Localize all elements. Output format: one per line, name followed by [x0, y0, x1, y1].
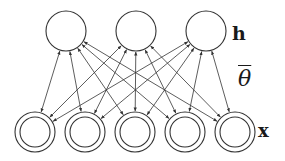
visible-layer — [15, 112, 255, 152]
hidden-node-h2 — [116, 11, 156, 51]
visible-layer-label: x — [258, 120, 269, 141]
outer-ring — [165, 112, 205, 152]
edge-h2-x3 — [135, 52, 136, 111]
edge-h3-x5 — [212, 51, 229, 112]
edge-h3-x2 — [101, 45, 190, 119]
outer-ring — [215, 112, 255, 152]
edge-h1-x2 — [70, 52, 81, 112]
outer-ring — [65, 112, 105, 152]
parameter-theta-label: θ — [238, 66, 251, 91]
hidden-layer — [46, 11, 226, 51]
edge-h3-x1 — [53, 42, 188, 122]
hidden-layer-label: h — [232, 22, 246, 44]
edge-h2-x5 — [151, 46, 221, 117]
hidden-node-h3 — [186, 11, 226, 51]
edge-h3-x3 — [147, 48, 194, 115]
visible-node-x4 — [165, 112, 205, 152]
edge-h3-x4 — [189, 52, 201, 112]
edge-h1-x1 — [41, 51, 60, 112]
edge-h1-x3 — [78, 48, 123, 114]
edge-h1-x4 — [82, 45, 169, 119]
visible-node-x5 — [215, 112, 255, 152]
outer-ring — [15, 112, 55, 152]
edges-group — [41, 42, 229, 122]
visible-node-x2 — [65, 112, 105, 152]
visible-node-x1 — [15, 112, 55, 152]
visible-node-x3 — [115, 112, 155, 152]
outer-ring — [115, 112, 155, 152]
hidden-node-h1 — [46, 11, 86, 51]
